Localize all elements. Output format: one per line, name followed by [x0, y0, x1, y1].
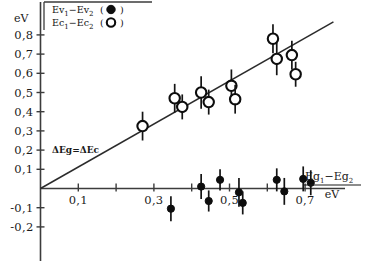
x-axis-label-numerator: Eg1−Eg2 — [305, 170, 353, 185]
x-axis-label-denominator: eV — [325, 188, 341, 201]
data-series-ec — [137, 24, 300, 140]
plot-canvas: 0,80,70,60,50,40,30,20,1-0,1-0,2eV0,10,3… — [0, 0, 375, 263]
y-axis-tick-label: 0,3 — [14, 124, 33, 138]
x-axis-tick-label: 0,7 — [295, 193, 314, 207]
data-point-open-circle — [272, 54, 282, 64]
y-axis-tick-label: 0,4 — [14, 105, 33, 119]
legend-layer: Ev1−Ev2()Ec1−Ec2() — [44, 2, 152, 31]
legend-marker-open-circle-icon — [107, 18, 115, 26]
data-point-open-circle — [230, 94, 240, 104]
data-point-filled-circle — [273, 176, 280, 183]
x-axis-tick-label: 0,3 — [144, 193, 163, 207]
legend-paren-right-ev: ) — [120, 4, 124, 15]
data-point-open-circle — [204, 97, 214, 107]
data-point-open-circle — [177, 102, 187, 112]
data-point-filled-circle — [167, 205, 174, 212]
data-point-open-circle — [137, 121, 147, 131]
data-series-ev — [167, 166, 314, 221]
legend-item-label-ev: Ev1−Ev2 — [52, 4, 94, 18]
x-axis-tick-label: 0,1 — [69, 193, 88, 207]
legend: Ev1−Ev2()Ec1−Ec2() — [44, 2, 152, 31]
legend-paren-right-ec: ) — [120, 17, 124, 28]
scatter-plot-figure: 0,80,70,60,50,40,30,20,1-0,1-0,2eV0,10,3… — [0, 0, 375, 263]
data-point-filled-circle — [281, 188, 288, 195]
data-point-filled-circle — [198, 183, 205, 190]
y-axis-tick-label: 0,1 — [14, 162, 33, 176]
data-point-open-circle — [268, 34, 278, 44]
x-axis-tick-label: 0,5 — [220, 193, 239, 207]
identity-line-annotation: ΔEg=ΔEc — [52, 145, 100, 155]
data-point-open-circle — [196, 87, 206, 97]
legend-item-ec: Ec1−Ec2() — [52, 17, 124, 31]
axis-label-layer: 0,80,70,60,50,40,30,20,1-0,1-0,2eV0,10,3… — [10, 12, 361, 234]
y-axis-tick-label: 0,8 — [14, 28, 33, 42]
data-point-open-circle — [290, 69, 300, 79]
data-point-open-circle — [169, 93, 179, 103]
data-point-filled-circle — [205, 197, 212, 204]
y-axis-tick-label: 0,7 — [14, 47, 33, 61]
legend-item-ev: Ev1−Ev2() — [52, 4, 124, 18]
data-point-filled-circle — [216, 176, 223, 183]
y-axis-tick-label: 0,5 — [14, 86, 33, 100]
y-axis-tick-label: -0,1 — [10, 201, 33, 215]
data-point-filled-circle — [239, 199, 246, 206]
legend-paren-left-ec: ( — [100, 17, 104, 28]
legend-paren-left-ev: ( — [100, 4, 104, 15]
data-point-open-circle — [287, 50, 297, 60]
y-axis-tick-label: 0,6 — [14, 66, 33, 80]
y-axis-tick-label: 0,2 — [14, 143, 33, 157]
legend-item-label-ec: Ec1−Ec2 — [52, 17, 93, 31]
legend-marker-filled-circle-icon — [107, 5, 115, 13]
y-axis-unit-label: eV — [14, 12, 30, 25]
y-axis-tick-label: -0,2 — [10, 220, 33, 234]
